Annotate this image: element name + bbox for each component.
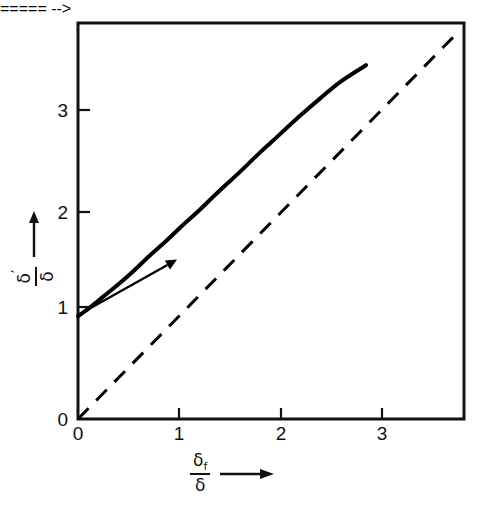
x-tick-label-0: 0 bbox=[73, 424, 84, 443]
x-axis-label-numerator: δf bbox=[190, 452, 210, 473]
identity-dashed-line bbox=[78, 36, 454, 419]
x-tick-label-2: 2 bbox=[276, 424, 287, 443]
figure-container: 0 1 2 3 0 1 2 3 ===== --> δf δ δ′ δ bbox=[0, 0, 484, 509]
x-axis-label-subscript: f bbox=[203, 460, 207, 473]
y-axis-label-numerator: δ′ bbox=[11, 267, 35, 287]
x-axis-label-denominator: δ bbox=[190, 476, 210, 495]
x-axis-label-fraction: δf δ bbox=[190, 452, 210, 495]
x-axis-label: δf δ bbox=[190, 452, 275, 495]
y-tick-label-3: 3 bbox=[46, 101, 68, 120]
y-axis-label-denominator: δ bbox=[38, 267, 57, 287]
y-tick-label-1: 1 bbox=[46, 298, 68, 317]
solid-data-curve bbox=[78, 65, 366, 316]
x-tick-label-1: 1 bbox=[174, 424, 185, 443]
x-tick-label-3: 3 bbox=[377, 424, 388, 443]
y-axis-label: δ′ δ bbox=[14, 200, 54, 296]
y-axis-label-fraction: δ′ δ bbox=[11, 267, 56, 287]
up-arrow-icon bbox=[27, 210, 41, 258]
y-tick-label-0: 0 bbox=[46, 410, 68, 429]
y-axis-ticks bbox=[78, 110, 90, 307]
x-axis-ticks bbox=[179, 408, 382, 419]
direction-arrow-annotation bbox=[80, 260, 177, 315]
right-arrow-icon bbox=[219, 467, 275, 481]
y-axis-label-prime: ′ bbox=[9, 270, 27, 273]
